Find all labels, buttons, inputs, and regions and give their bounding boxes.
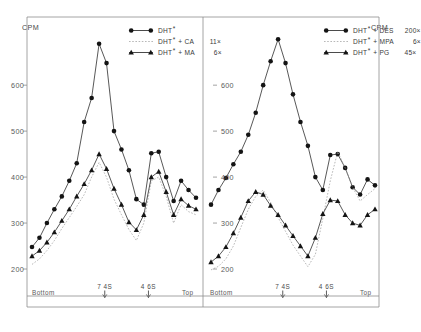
legend-label-competitor: + MA xyxy=(176,49,195,56)
chart-panel-right: CPM 600500400300200 BottomTop7 4S4 6S DH… xyxy=(203,0,406,332)
data-point-marker xyxy=(67,206,72,211)
data-point-marker xyxy=(149,28,154,33)
data-point-marker xyxy=(37,235,42,240)
legend-label-base: DHT xyxy=(353,27,367,34)
legend-label-competitor: + PG xyxy=(371,49,389,56)
data-point-marker xyxy=(223,244,228,249)
y-tick-label: 500 xyxy=(6,127,24,136)
data-point-marker xyxy=(268,59,273,64)
data-point-marker xyxy=(320,211,325,216)
data-point-marker xyxy=(283,61,288,66)
data-point-marker xyxy=(324,28,329,33)
data-point-marker xyxy=(231,230,236,235)
data-point-marker xyxy=(112,129,117,134)
data-point-marker xyxy=(216,188,221,193)
sedimentation-marker-arrow xyxy=(281,291,285,298)
data-point-marker xyxy=(231,162,236,167)
data-point-marker xyxy=(97,41,102,46)
data-point-marker xyxy=(328,197,333,202)
data-point-marker xyxy=(179,178,184,183)
y-tick-label: 600 xyxy=(6,81,24,90)
data-point-marker xyxy=(164,175,169,180)
data-point-marker xyxy=(306,144,311,149)
legend-symbol-triangle-icon xyxy=(128,48,154,57)
y-tick-label: 300 xyxy=(6,219,24,228)
legend-right: DHT* + DES200×DHT* + MPA6×DHT* + PG45× xyxy=(323,25,421,58)
legend-label-base: DHT xyxy=(353,38,367,45)
legend-symbol-circle-icon xyxy=(323,26,349,35)
y-tick-label: 200 xyxy=(6,265,24,274)
data-point-marker xyxy=(239,150,244,155)
legend-label: DHT* + PG45× xyxy=(353,49,416,56)
legend-symbol-triangle-icon xyxy=(323,48,349,57)
data-point-marker xyxy=(253,110,258,115)
chart-panel-left: CPM 600500400300200 BottomTop7 4S4 6S DH… xyxy=(0,0,203,332)
data-point-marker xyxy=(45,221,50,226)
data-point-marker xyxy=(127,168,132,173)
x-axis-bottom-label: Bottom xyxy=(210,289,233,296)
legend-label-superscript: * xyxy=(172,25,176,32)
legend-label-superscript: * xyxy=(367,36,371,43)
data-point-marker xyxy=(178,196,183,201)
data-point-marker xyxy=(350,185,355,190)
data-point-marker xyxy=(365,212,370,217)
legend-label-base: DHT xyxy=(353,49,367,56)
data-point-marker xyxy=(373,183,378,188)
data-point-marker xyxy=(111,186,116,191)
data-point-marker xyxy=(365,177,370,182)
legend-label-base: DHT xyxy=(158,49,172,56)
data-point-marker xyxy=(59,218,64,223)
data-point-marker xyxy=(328,153,333,158)
data-point-marker xyxy=(149,151,154,156)
data-point-marker xyxy=(149,174,154,179)
legend-label-factor: 200× xyxy=(399,27,421,34)
data-point-marker xyxy=(372,206,377,211)
legend-item: DHT* + PG45× xyxy=(323,47,421,58)
data-point-marker xyxy=(156,150,161,155)
data-point-marker xyxy=(186,188,191,193)
x-axis-top-label: Top xyxy=(182,289,194,296)
data-point-marker xyxy=(171,212,176,217)
x-axis-top-label: Top xyxy=(360,289,372,296)
data-point-marker xyxy=(194,195,199,200)
data-point-marker xyxy=(74,161,79,166)
data-point-marker xyxy=(126,219,131,224)
data-point-marker xyxy=(67,178,72,183)
data-point-marker xyxy=(29,253,34,258)
legend-symbol-none-icon xyxy=(128,37,154,46)
data-point-marker xyxy=(30,245,35,250)
data-point-marker xyxy=(253,189,258,194)
legend-label-superscript: * xyxy=(172,36,176,43)
data-point-marker xyxy=(344,28,349,33)
sedimentation-marker-arrow xyxy=(324,291,328,298)
data-point-marker xyxy=(104,61,109,66)
y-tick-label: 400 xyxy=(6,173,24,182)
series-line xyxy=(211,152,375,270)
data-point-marker xyxy=(104,166,109,171)
legend-item: DHT* + MPA6× xyxy=(323,36,421,47)
legend-label-factor: 6× xyxy=(399,38,421,45)
data-point-marker xyxy=(193,206,198,211)
legend-label-competitor: + CA xyxy=(176,38,194,45)
legend-label: DHT* + DES200× xyxy=(353,27,421,34)
sedimentation-marker-arrow xyxy=(103,291,107,298)
data-point-marker xyxy=(96,151,101,156)
data-point-marker xyxy=(89,96,94,101)
data-point-marker xyxy=(89,167,94,172)
data-point-marker xyxy=(52,207,57,212)
data-point-marker xyxy=(134,197,139,202)
y-tick-label: 200 xyxy=(221,265,241,274)
data-point-marker xyxy=(246,133,251,138)
data-point-marker xyxy=(291,92,296,97)
legend-label-base: DHT xyxy=(158,27,172,34)
data-point-marker xyxy=(321,188,326,193)
y-tick-label: 600 xyxy=(221,81,241,90)
legend-symbol-none-icon xyxy=(323,37,349,46)
data-point-marker xyxy=(313,175,318,180)
x-axis-bottom-label: Bottom xyxy=(32,289,55,296)
data-point-marker xyxy=(82,120,87,125)
data-point-marker xyxy=(119,202,124,207)
legend-label-competitor: + MPA xyxy=(371,38,394,45)
data-point-marker xyxy=(171,199,176,204)
data-point-marker xyxy=(119,147,124,152)
